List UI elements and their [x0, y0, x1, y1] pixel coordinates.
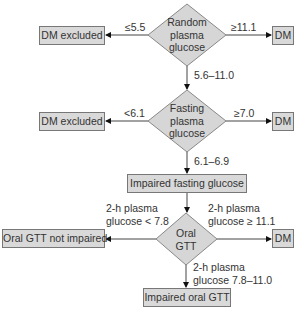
decision-fasting-line-3: glucose: [157, 127, 217, 140]
decision-oral-label: Oral GTT: [161, 227, 211, 252]
outcome-oral-gtt-not-impaired: Oral GTT not impaired: [2, 229, 105, 248]
outcome-dm-excluded-random: DM excluded: [39, 26, 105, 45]
decision-oral-line-1: Oral: [161, 227, 211, 240]
edge-label-random-down: 5.6–11.0: [194, 69, 234, 82]
edge-label-oral-right: 2-h plasma glucose ≥ 11.1: [208, 202, 275, 227]
outcome-dm-excluded-fasting: DM excluded: [39, 112, 105, 131]
outcome-dm-oral: DM: [272, 229, 294, 248]
edge-label-oral-right-line-1: 2-h plasma: [208, 202, 275, 215]
edge-label-oral-down-line-1: 2-h plasma: [193, 261, 272, 274]
edge-label-oral-left: 2-h plasma glucose < 7.8: [106, 202, 169, 227]
edge-label-oral-right-line-2: glucose ≥ 11.1: [208, 215, 275, 228]
outcome-dm-random: DM: [272, 26, 294, 45]
decision-random-line-2: plasma: [157, 29, 217, 42]
decision-oral-line-2: GTT: [161, 240, 211, 253]
edge-label-oral-down-line-2: glucose 7.8–11.0: [193, 274, 272, 287]
decision-fasting-line-1: Fasting: [157, 102, 217, 115]
outcome-impaired-oral-gtt: Impaired oral GTT: [143, 288, 231, 307]
edge-label-fasting-right: ≥7.0: [234, 107, 254, 120]
outcome-impaired-fasting-glucose: Impaired fasting glucose: [127, 174, 247, 193]
decision-fasting-line-2: plasma: [157, 115, 217, 128]
decision-random-line-3: glucose: [157, 41, 217, 54]
edge-label-oral-down: 2-h plasma glucose 7.8–11.0: [193, 261, 272, 286]
decision-random-line-1: Random: [157, 16, 217, 29]
edge-label-fasting-left: <6.1: [124, 107, 145, 120]
edge-label-fasting-down: 6.1–6.9: [194, 155, 229, 168]
edge-label-oral-left-line-2: glucose < 7.8: [106, 215, 169, 228]
outcome-dm-fasting: DM: [272, 112, 294, 131]
edge-label-random-right: ≥11.1: [231, 21, 256, 34]
decision-fasting-label: Fasting plasma glucose: [157, 102, 217, 140]
decision-random-label: Random plasma glucose: [157, 16, 217, 54]
edge-label-oral-left-line-1: 2-h plasma: [106, 202, 169, 215]
edge-label-random-left: ≤5.5: [125, 21, 145, 34]
